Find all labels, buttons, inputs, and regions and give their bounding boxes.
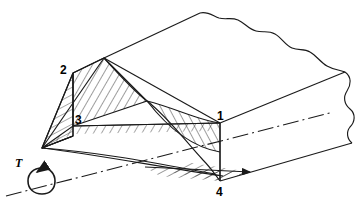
break-line-right xyxy=(345,72,355,143)
label-point-2: 2 xyxy=(60,64,67,76)
label-point-1: 1 xyxy=(217,110,224,122)
break-line-top xyxy=(200,13,345,72)
fracture-diagram xyxy=(0,0,364,211)
label-point-4: 4 xyxy=(216,186,223,198)
torque-rotation-arrow xyxy=(28,168,55,194)
label-torque: T xyxy=(15,157,22,169)
bar-top-face xyxy=(104,13,345,123)
label-point-3: 3 xyxy=(75,114,82,126)
